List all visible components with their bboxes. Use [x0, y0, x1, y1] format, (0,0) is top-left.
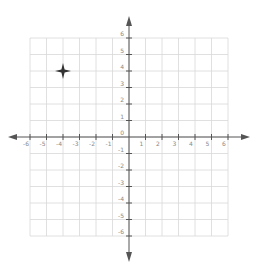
x-tick-label: 4 — [189, 140, 193, 147]
x-tick-label: -6 — [23, 140, 29, 147]
x-tick-label: 3 — [173, 140, 177, 147]
y-tick-label: -6 — [118, 228, 124, 235]
y-tick-label: 4 — [120, 63, 124, 70]
y-tick-label: 5 — [120, 47, 124, 54]
x-axis-right-arrow-icon — [241, 134, 250, 140]
coordinate-plane: -6-5-4-3-2-1123456-6-5-4-3-2-10123456 — [0, 0, 258, 270]
x-tick-label: -1 — [106, 140, 112, 147]
star-point-icon — [55, 63, 71, 79]
y-tick-label: -1 — [118, 146, 124, 153]
x-tick-label: -3 — [73, 140, 79, 147]
y-axis-down-arrow-icon — [126, 252, 132, 262]
x-tick-label: -2 — [89, 140, 95, 147]
y-tick-label: -3 — [118, 179, 124, 186]
x-tick-label: -4 — [56, 140, 62, 147]
x-tick-label: 1 — [140, 140, 144, 147]
x-axis-left-arrow-icon — [8, 134, 17, 140]
x-tick-label: -5 — [40, 140, 46, 147]
x-tick-label: 2 — [156, 140, 160, 147]
x-tick-label: 5 — [206, 140, 210, 147]
y-tick-label: -5 — [118, 212, 124, 219]
y-tick-label: -2 — [118, 162, 124, 169]
y-tick-label: 6 — [120, 30, 124, 37]
y-tick-label: 3 — [120, 80, 124, 87]
y-axis-up-arrow-icon — [126, 16, 132, 26]
y-tick-label: 1 — [120, 113, 124, 120]
x-tick-label: 6 — [222, 140, 226, 147]
y-tick-label: -4 — [118, 195, 124, 202]
y-tick-label: 0 — [120, 129, 124, 136]
y-tick-label: 2 — [120, 96, 124, 103]
